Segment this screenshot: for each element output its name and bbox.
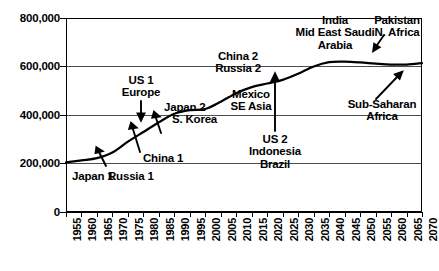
- x-axis-label-1955: 1955: [71, 218, 83, 241]
- x-tick-2030: [298, 212, 299, 217]
- y-axis: [66, 18, 67, 212]
- x-axis-label-1975: 1975: [133, 218, 145, 241]
- x-tick-1965: [97, 212, 98, 217]
- y-axis-label-400000: 400,000: [2, 109, 60, 121]
- x-tick-2045: [345, 212, 346, 217]
- x-tick-2000: [205, 212, 206, 217]
- x-axis-label-2005: 2005: [226, 218, 238, 241]
- annotation-japan-2: Japan 2: [164, 101, 226, 113]
- x-axis-label-2010: 2010: [241, 218, 253, 241]
- x-tick-2060: [391, 212, 392, 217]
- annotation-indonesia: Indonesia: [243, 145, 307, 157]
- x-axis-label-2000: 2000: [210, 218, 222, 241]
- annotation-japan-2-s-korea: Japan 2 S. Korea: [164, 101, 226, 126]
- x-tick-1985: [159, 212, 160, 217]
- x-axis-label-1990: 1990: [179, 218, 191, 241]
- x-tick-2050: [360, 212, 361, 217]
- annotation-us-1: US 1: [108, 74, 174, 86]
- x-tick-1960: [81, 212, 82, 217]
- x-tick-1970: [112, 212, 113, 217]
- annotation-brazil: Brazil: [243, 158, 307, 170]
- x-tick-1955: [66, 212, 67, 217]
- x-axis-label-1980: 1980: [148, 218, 160, 241]
- x-axis-label-2020: 2020: [272, 218, 284, 241]
- x-axis-label-1970: 1970: [117, 218, 129, 241]
- x-axis-label-2065: 2065: [412, 218, 424, 241]
- x-tick-1995: [190, 212, 191, 217]
- x-axis-label-2030: 2030: [303, 218, 315, 241]
- x-tick-2015: [252, 212, 253, 217]
- x-axis-label-2015: 2015: [257, 218, 269, 241]
- x-axis: [66, 212, 422, 213]
- annotation-china-1: China 1: [143, 152, 183, 164]
- annotation-china-2-russia-2: China 2 Russia 2: [203, 50, 273, 75]
- annotation-sub-saharan-africa: Sub-Saharan Africa: [341, 98, 423, 123]
- annotation-us-1-europe: US 1 Europe: [108, 74, 174, 99]
- x-axis-label-2060: 2060: [396, 218, 408, 241]
- annotation-arabia: Arabia: [292, 39, 378, 51]
- annotation-russia-2: Russia 2: [203, 62, 273, 74]
- x-axis-label-1995: 1995: [195, 218, 207, 241]
- annotation-us-2-indonesia-brazil: US 2 Indonesia Brazil: [243, 133, 307, 170]
- x-axis-label-2035: 2035: [319, 218, 331, 241]
- x-tick-2020: [267, 212, 268, 217]
- x-axis-label-2050: 2050: [365, 218, 377, 241]
- x-tick-2025: [283, 212, 284, 217]
- x-axis-label-2070: 2070: [427, 218, 439, 241]
- x-tick-2035: [314, 212, 315, 217]
- annotation-africa: Africa: [341, 110, 423, 122]
- y-tick-400000: [60, 115, 66, 116]
- y-tick-600000: [60, 66, 66, 67]
- annotation-se-asia: SE Asia: [218, 100, 284, 112]
- y-axis-label-800000: 800,000: [2, 12, 60, 24]
- x-axis-label-2045: 2045: [350, 218, 362, 241]
- annotation-us-2: US 2: [243, 133, 307, 145]
- x-tick-2070: [422, 212, 423, 217]
- x-tick-1990: [174, 212, 175, 217]
- annotation-europe: Europe: [108, 86, 174, 98]
- annotation-china-2: China 2: [203, 50, 273, 62]
- x-tick-1980: [143, 212, 144, 217]
- annotation-n-africa: N. Africa: [362, 26, 432, 38]
- y-tick-200000: [60, 163, 66, 164]
- x-tick-2055: [376, 212, 377, 217]
- annotation-pakistan: Pakistan: [362, 14, 432, 26]
- x-axis-label-1965: 1965: [102, 218, 114, 241]
- x-axis-label-2040: 2040: [334, 218, 346, 241]
- x-axis-label-1960: 1960: [86, 218, 98, 241]
- y-axis-label-0: 0: [2, 206, 60, 218]
- x-tick-2065: [407, 212, 408, 217]
- x-axis-label-2025: 2025: [288, 218, 300, 241]
- annotation-s-korea: S. Korea: [164, 113, 226, 125]
- annotation-russia-1: Russia 1: [108, 170, 154, 182]
- x-tick-2010: [236, 212, 237, 217]
- x-axis-label-2055: 2055: [381, 218, 393, 241]
- y-tick-800000: [60, 18, 66, 19]
- x-tick-2005: [221, 212, 222, 217]
- x-axis-label-1985: 1985: [164, 218, 176, 241]
- annotation-mexico: Mexico: [218, 88, 284, 100]
- annotation-mexico-se-asia: Mexico SE Asia: [218, 88, 284, 113]
- annotation-sub-saharan: Sub-Saharan: [341, 98, 423, 110]
- y-axis-label-200000: 200,000: [2, 157, 60, 169]
- x-tick-1975: [128, 212, 129, 217]
- y-axis-label-600000: 600,000: [2, 60, 60, 72]
- annotation-pakistan-n-africa: Pakistan N. Africa: [362, 14, 432, 39]
- x-tick-2040: [329, 212, 330, 217]
